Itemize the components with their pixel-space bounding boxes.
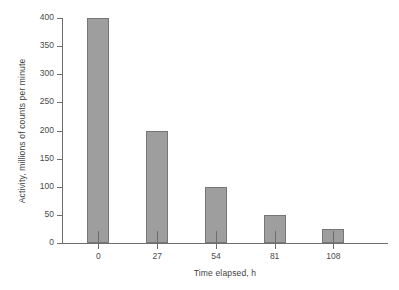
y-tick-100: 100 bbox=[62, 187, 63, 188]
y-tick-label: 300 bbox=[24, 68, 54, 78]
x-tick-label: 108 bbox=[313, 251, 353, 261]
x-tick-label: 0 bbox=[78, 251, 118, 261]
y-tick-0: 0 bbox=[62, 243, 63, 244]
y-tick-label: 400 bbox=[24, 12, 54, 22]
y-tick-350: 350 bbox=[62, 46, 63, 47]
y-tick-mark bbox=[57, 102, 63, 103]
bar bbox=[146, 131, 168, 244]
bar bbox=[87, 18, 109, 243]
y-tick-label: 0 bbox=[24, 237, 54, 247]
plot-area: 050100150200250300350400 0275481108 bbox=[62, 18, 388, 243]
y-tick-300: 300 bbox=[62, 74, 63, 75]
y-tick-mark bbox=[57, 46, 63, 47]
y-tick-label: 50 bbox=[24, 209, 54, 219]
x-tick-mark bbox=[157, 243, 158, 249]
x-tick-mark bbox=[216, 243, 217, 249]
y-tick-label: 250 bbox=[24, 96, 54, 106]
y-tick-mark bbox=[57, 187, 63, 188]
x-tick-mark bbox=[275, 243, 276, 249]
x-tick-overlay-mark bbox=[275, 231, 276, 243]
y-tick-250: 250 bbox=[62, 102, 63, 103]
x-axis-line bbox=[62, 243, 388, 244]
y-tick-label: 100 bbox=[24, 181, 54, 191]
y-tick-mark bbox=[57, 131, 63, 132]
y-tick-mark bbox=[57, 74, 63, 75]
x-tick-mark bbox=[333, 243, 334, 249]
y-tick-mark bbox=[57, 243, 63, 244]
y-tick-label: 150 bbox=[24, 153, 54, 163]
x-tick-overlay-mark bbox=[157, 231, 158, 243]
y-tick-label: 200 bbox=[24, 125, 54, 135]
x-tick-mark bbox=[98, 243, 99, 249]
y-tick-label: 350 bbox=[24, 40, 54, 50]
y-tick-50: 50 bbox=[62, 215, 63, 216]
x-tick-overlay-mark bbox=[216, 231, 217, 243]
y-tick-200: 200 bbox=[62, 131, 63, 132]
y-tick-150: 150 bbox=[62, 159, 63, 160]
y-tick-mark bbox=[57, 215, 63, 216]
x-tick-label: 81 bbox=[255, 251, 295, 261]
x-tick-label: 54 bbox=[196, 251, 236, 261]
x-axis-title: Time elapsed, h bbox=[60, 268, 390, 278]
y-tick-mark bbox=[57, 18, 63, 19]
bar-chart-figure: Activity, millions of counts per minute … bbox=[0, 0, 399, 290]
y-tick-mark bbox=[57, 159, 63, 160]
x-tick-overlay-mark bbox=[333, 231, 334, 243]
x-tick-label: 27 bbox=[137, 251, 177, 261]
x-tick-overlay-mark bbox=[98, 231, 99, 243]
y-tick-400: 400 bbox=[62, 18, 63, 19]
